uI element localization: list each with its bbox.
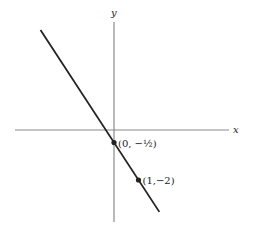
- chart: x y (0, −½)(1,−2): [0, 0, 254, 235]
- series-line-0: [41, 30, 160, 212]
- data-point-1: [136, 177, 141, 182]
- series-layer: [41, 30, 160, 212]
- points-layer: (0, −½)(1,−2): [111, 138, 174, 187]
- x-axis-label: x: [233, 124, 239, 135]
- y-axis-label: y: [110, 7, 117, 18]
- data-point-label-1: (1,−2): [143, 175, 175, 186]
- data-point-0: [111, 140, 116, 145]
- data-point-label-0: (0, −½): [118, 138, 157, 149]
